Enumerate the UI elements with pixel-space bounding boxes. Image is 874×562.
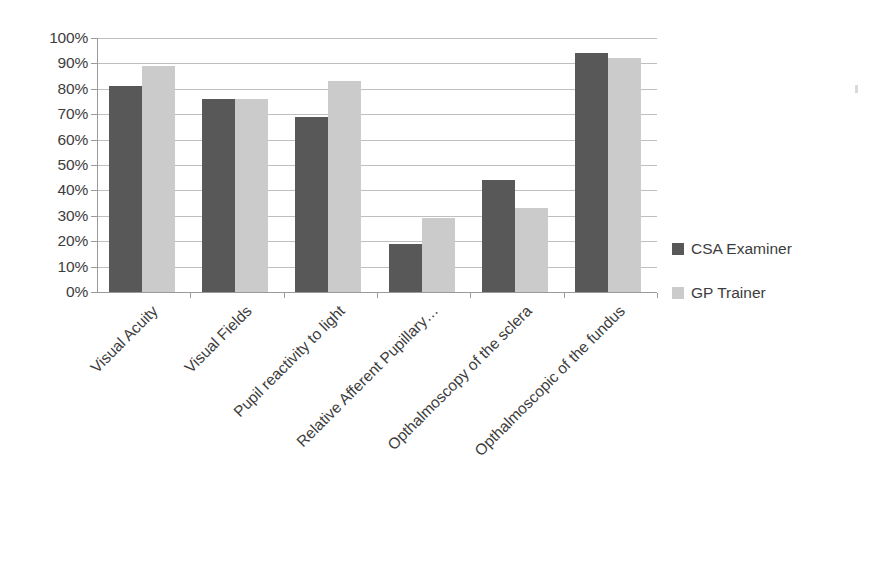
bar[interactable] [482,180,515,292]
bar-group [284,38,377,292]
x-axis-tick [564,293,565,298]
y-axis-tick-label: 10% [32,259,88,275]
y-axis-tick-label: 20% [32,233,88,249]
x-axis-tick [470,293,471,298]
bars-layer [97,38,657,292]
bar-group [377,38,470,292]
y-axis-labels: 100%90%80%70%60%50%40%30%20%10%0% [28,38,88,293]
bar-chart: 100%90%80%70%60%50%40%30%20%10%0% Visual… [0,0,874,562]
y-axis-tick-label: 40% [32,182,88,198]
y-axis-tick [91,190,97,191]
bar-group [470,38,563,292]
legend-item-csa-examiner[interactable]: CSA Examiner [672,240,862,258]
y-axis-tick-label: 30% [32,208,88,224]
bar[interactable] [389,244,422,292]
bar-group [97,38,190,292]
legend-swatch-icon [672,243,684,255]
x-axis-tick [657,293,658,298]
y-axis-tick-label: 90% [32,55,88,71]
bar[interactable] [328,81,361,292]
bar[interactable] [515,208,548,292]
y-axis-tick-label: 50% [32,157,88,173]
y-axis-tick-label: 70% [32,106,88,122]
y-axis-tick [91,216,97,217]
legend-item-gp-trainer[interactable]: GP Trainer [672,284,862,302]
bar[interactable] [575,53,608,292]
y-axis-tick [91,140,97,141]
bar-group [190,38,283,292]
x-axis-category-label: Visual Acuity [87,302,161,376]
y-axis-tick [91,165,97,166]
bar[interactable] [109,86,142,292]
bar[interactable] [608,58,641,292]
plot-area [97,38,657,292]
bar[interactable] [295,117,328,292]
y-axis-tick [91,38,97,39]
bar[interactable] [235,99,268,292]
bar-group [564,38,657,292]
scan-artifact [855,85,858,93]
x-axis-tick [377,293,378,298]
y-axis-tick-label: 0% [32,284,88,300]
chart-legend: CSA Examiner GP Trainer [672,240,862,328]
y-axis-tick [91,241,97,242]
legend-item-label: CSA Examiner [691,241,792,257]
y-axis-tick [91,89,97,90]
bar[interactable] [202,99,235,292]
y-axis-line [97,38,98,293]
x-axis-tick [284,293,285,298]
legend-swatch-icon [672,287,684,299]
y-axis-tick-label: 60% [32,132,88,148]
bar[interactable] [422,218,455,292]
bar[interactable] [142,66,175,292]
legend-item-label: GP Trainer [691,285,766,301]
x-axis-category-label: Visual Fields [181,302,255,376]
y-axis-tick-label: 80% [32,81,88,97]
y-axis-tick [91,267,97,268]
y-axis-tick [91,114,97,115]
y-axis-tick-label: 100% [32,30,88,46]
x-axis-tick [190,293,191,298]
y-axis-tick [91,292,97,293]
x-axis-category-label: Opthalmoscopic of the fundus [471,302,628,459]
y-axis-tick [91,63,97,64]
